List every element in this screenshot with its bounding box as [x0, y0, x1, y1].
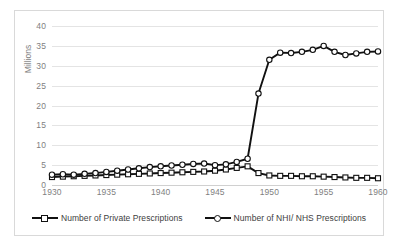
data-point-marker: [158, 171, 163, 176]
data-point-marker: [321, 43, 326, 48]
series-line-2: [52, 46, 378, 175]
x-axis-tick: 1960: [368, 187, 387, 197]
y-axis-tick: 30: [36, 61, 46, 71]
data-point-marker: [191, 161, 196, 166]
x-axis-tick-labels: 1930193519401945195019551960: [0, 187, 398, 201]
data-point-marker: [364, 49, 369, 54]
data-point-marker: [180, 170, 185, 175]
legend-label: Number of Private Prescriptions: [61, 213, 183, 223]
data-point-marker: [288, 50, 293, 55]
plot-area: [52, 26, 378, 185]
data-point-marker: [136, 166, 141, 171]
data-point-marker: [60, 172, 65, 177]
data-point-marker: [213, 168, 218, 173]
data-point-marker: [180, 162, 185, 167]
y-axis-tick: 15: [36, 120, 46, 130]
data-point-marker: [289, 173, 294, 178]
data-point-marker: [115, 168, 120, 173]
data-point-marker: [202, 169, 207, 174]
data-point-marker: [365, 175, 370, 180]
data-point-marker: [299, 174, 304, 179]
data-point-marker: [310, 174, 315, 179]
data-point-marker: [376, 176, 381, 181]
x-axis-tick: 1940: [151, 187, 170, 197]
data-point-marker: [245, 164, 250, 169]
data-point-marker: [201, 161, 206, 166]
data-point-marker: [299, 49, 304, 54]
data-point-marker: [310, 47, 315, 52]
y-axis-tick: 10: [36, 140, 46, 150]
data-point-marker: [82, 171, 87, 176]
data-point-marker: [354, 51, 359, 56]
x-axis-tick: 1955: [314, 187, 333, 197]
data-point-marker: [267, 57, 272, 62]
x-axis-tick: 1950: [260, 187, 279, 197]
data-point-marker: [136, 171, 141, 176]
legend-marker-icon: [32, 213, 58, 223]
data-point-marker: [212, 162, 217, 167]
data-point-marker: [104, 169, 109, 174]
data-point-marker: [234, 165, 239, 170]
data-point-marker: [278, 173, 283, 178]
data-point-marker: [223, 167, 228, 172]
data-point-marker: [354, 175, 359, 180]
x-axis-tick: 1930: [42, 187, 61, 197]
data-point-marker: [49, 172, 54, 177]
x-axis-tick: 1935: [97, 187, 116, 197]
data-point-marker: [125, 167, 130, 172]
data-point-marker: [169, 163, 174, 168]
data-point-marker: [256, 171, 261, 176]
chart-container: Millions 0510152025303540 19301935194019…: [0, 0, 398, 246]
y-axis-tick: 25: [36, 81, 46, 91]
data-point-marker: [375, 49, 380, 54]
data-point-marker: [343, 52, 348, 57]
data-point-marker: [234, 159, 239, 164]
y-axis-tick: 40: [36, 21, 46, 31]
series-canvas: [52, 26, 378, 185]
data-point-marker: [332, 49, 337, 54]
y-axis-tick: 20: [36, 101, 46, 111]
data-point-marker: [158, 164, 163, 169]
data-point-marker: [321, 174, 326, 179]
x-axis-tick: 1945: [205, 187, 224, 197]
data-point-marker: [332, 175, 337, 180]
data-point-marker: [343, 175, 348, 180]
data-point-marker: [71, 172, 76, 177]
y-axis-tick: 35: [36, 41, 46, 51]
y-axis-tick: 5: [41, 160, 46, 170]
data-point-marker: [245, 156, 250, 161]
legend-item-1[interactable]: Number of Private Prescriptions: [32, 213, 183, 223]
data-point-marker: [147, 171, 152, 176]
legend-item-2[interactable]: Number of NHI/ NHS Prescriptions: [205, 213, 366, 223]
legend-marker-icon: [205, 213, 231, 223]
data-point-marker: [223, 162, 228, 167]
legend-label: Number of NHI/ NHS Prescriptions: [234, 213, 366, 223]
data-point-marker: [278, 50, 283, 55]
data-point-marker: [93, 170, 98, 175]
chart-legend: Number of Private PrescriptionsNumber of…: [14, 207, 384, 229]
gridline: [52, 185, 378, 186]
data-point-marker: [267, 173, 272, 178]
data-point-marker: [147, 164, 152, 169]
data-point-marker: [191, 169, 196, 174]
data-point-marker: [169, 170, 174, 175]
data-point-marker: [256, 91, 261, 96]
